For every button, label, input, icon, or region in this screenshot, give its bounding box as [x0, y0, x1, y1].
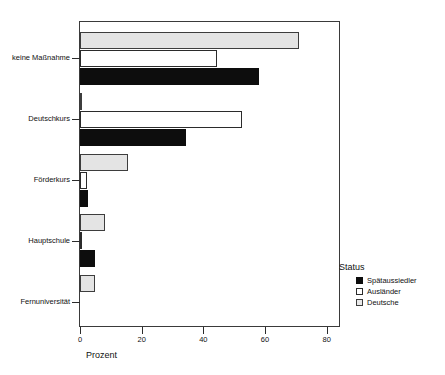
- legend-item: Deutsche: [356, 298, 443, 307]
- legend: Status SpätaussiedlerAusländerDeutsche: [339, 262, 443, 309]
- legend-item-label: Deutsche: [367, 298, 399, 307]
- y-axis-tick: [72, 119, 80, 120]
- y-axis-tick: [72, 58, 80, 59]
- legend-swatch-icon: [356, 299, 363, 306]
- bar: [80, 154, 128, 171]
- bar: [80, 172, 87, 189]
- bar: [80, 93, 82, 110]
- bar: [80, 111, 242, 128]
- bar: [80, 250, 95, 267]
- y-axis-label: keine Maßnahme: [12, 53, 70, 62]
- bars-layer: [80, 22, 339, 326]
- legend-swatch-icon: [356, 277, 363, 284]
- y-axis-tick: [72, 241, 80, 242]
- y-axis-tick: [72, 180, 80, 181]
- x-axis-tick: [203, 327, 204, 334]
- bar: [80, 50, 217, 67]
- x-axis-tick-label: 80: [322, 335, 330, 344]
- bar: [80, 214, 105, 231]
- y-axis-label: Förderkurs: [34, 175, 70, 184]
- legend-items: SpätaussiedlerAusländerDeutsche: [339, 276, 443, 307]
- legend-item: Spätaussiedler: [356, 276, 443, 285]
- bar: [80, 32, 299, 49]
- y-axis-label: Deutschkurs: [28, 114, 70, 123]
- x-axis-tick-label: 40: [199, 335, 207, 344]
- y-axis-tick: [72, 302, 80, 303]
- legend-swatch-icon: [356, 288, 363, 295]
- x-axis-tick-label: 0: [78, 335, 82, 344]
- bar: [80, 275, 95, 292]
- x-axis-tick-label: 60: [261, 335, 269, 344]
- legend-item-label: Spätaussiedler: [367, 276, 417, 285]
- x-axis-tick: [80, 327, 81, 334]
- bar: [80, 129, 186, 146]
- y-axis-label: Fernuniversität: [20, 297, 70, 306]
- x-axis-tick-label: 20: [137, 335, 145, 344]
- y-axis-label: Hauptschule: [28, 236, 70, 245]
- bar: [80, 232, 82, 249]
- x-axis-tick: [327, 327, 328, 334]
- x-axis-tick: [142, 327, 143, 334]
- bar: [80, 190, 88, 207]
- bar: [80, 68, 259, 85]
- legend-item: Ausländer: [356, 287, 443, 296]
- legend-item-label: Ausländer: [367, 287, 401, 296]
- x-axis-tick: [265, 327, 266, 334]
- bar-chart: keine MaßnahmeDeutschkursFörderkursHaupt…: [0, 0, 445, 375]
- x-axis-title: Prozent: [86, 350, 117, 361]
- legend-title: Status: [339, 262, 443, 273]
